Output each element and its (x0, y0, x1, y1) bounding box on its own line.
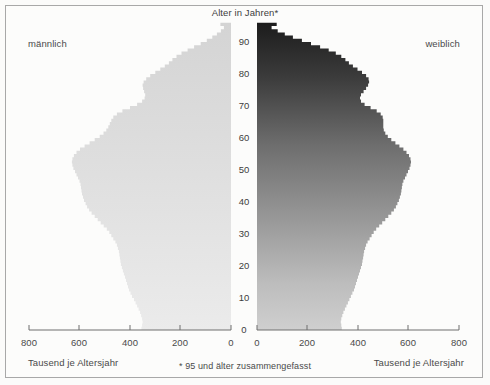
age-tick-label: 80 (239, 68, 250, 79)
age-tick-label: 20 (239, 260, 250, 271)
chart-title: Alter in Jahren* (0, 7, 490, 18)
x-tick-label: 200 (299, 337, 315, 348)
age-tick-label: 40 (239, 196, 250, 207)
x-tick-label: 0 (228, 337, 233, 348)
age-tick-label: 50 (239, 164, 250, 175)
population-pyramid-figure: Alter in Jahren* männlich weiblich 80060… (0, 0, 490, 385)
x-tick-label: 800 (21, 337, 37, 348)
male-population-area (72, 23, 231, 330)
x-tick-label: 0 (254, 337, 259, 348)
x-tick-label: 400 (350, 337, 366, 348)
x-tick-label: 200 (172, 337, 188, 348)
x-tick-label: 600 (71, 337, 87, 348)
chart-footnote: * 95 und älter zusammengefasst (0, 361, 490, 371)
male-side-label: männlich (28, 38, 67, 49)
age-tick-label: 10 (239, 292, 250, 303)
x-tick-label: 600 (400, 337, 416, 348)
age-tick-label: 70 (239, 100, 250, 111)
age-tick-label: 90 (239, 36, 250, 47)
x-tick-label: 400 (122, 337, 138, 348)
age-tick-label: 0 (241, 324, 246, 335)
age-tick-label: 30 (239, 228, 250, 239)
age-tick-label: 60 (239, 132, 250, 143)
x-tick-label: 800 (451, 337, 467, 348)
female-side-label: weiblich (425, 38, 460, 49)
female-population-area (257, 23, 411, 330)
